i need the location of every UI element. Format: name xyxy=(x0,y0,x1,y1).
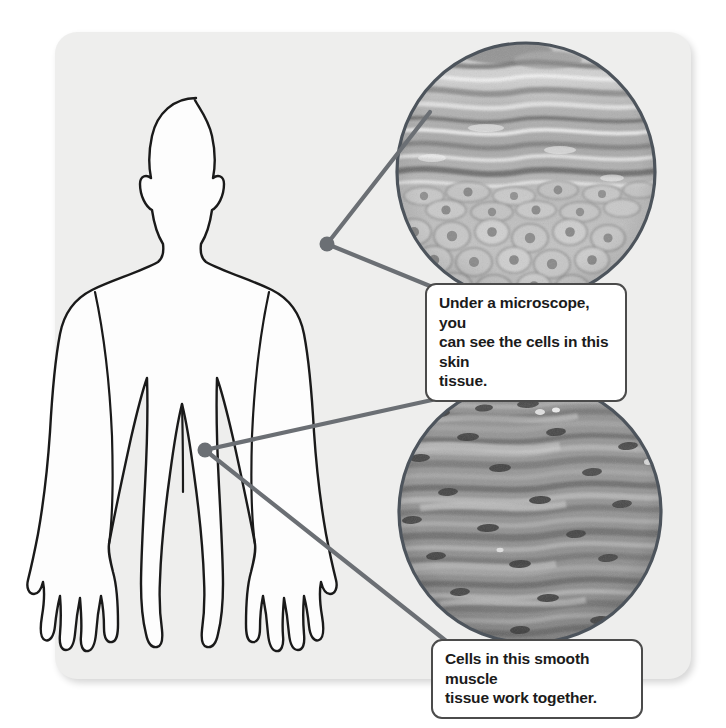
skin-tissue-callout-text: Under a microscope, you can see the cell… xyxy=(439,293,614,391)
smooth-muscle-micrograph xyxy=(394,380,670,646)
skin-tissue-callout: Under a microscope, you can see the cell… xyxy=(425,283,627,402)
skin-tissue-micrograph xyxy=(392,39,662,304)
smooth-muscle-callout: Cells in this smooth muscle tissue work … xyxy=(431,639,643,719)
shoulder-leader-dot xyxy=(320,237,335,252)
abdomen-leader-dot xyxy=(198,443,213,458)
inner-leg-line xyxy=(182,404,183,492)
figure-root: Under a microscope, you can see the cell… xyxy=(0,0,726,728)
smooth-muscle-callout-text: Cells in this smooth muscle tissue work … xyxy=(445,649,630,708)
body-outline xyxy=(27,98,336,651)
human-body-silhouette xyxy=(27,98,336,651)
